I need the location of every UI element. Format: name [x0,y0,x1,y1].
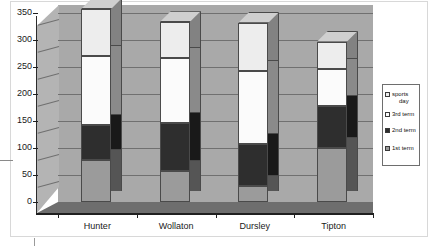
y-tick-200 [33,94,38,95]
bar-segment-sports-day[interactable] [160,22,190,58]
legend-swatch-icon [385,92,390,97]
x-tick [373,213,374,218]
bar-segment-side [111,114,122,149]
bar-segment-side [268,175,279,191]
plot-area [37,5,373,213]
y-axis-label: 150 [17,116,32,125]
bar-segment-3rd-term[interactable] [317,69,347,106]
legend-label: 2nd term [392,127,416,133]
legend-label-wrap: 2nd term [392,127,416,134]
x-axis-label-dursley: Dursley [216,221,295,231]
bar-segment-2nd-term[interactable] [317,106,347,148]
chart-legend[interactable]: sportsday3rd term2nd term1st term [382,84,420,166]
bar-column[interactable] [317,5,358,213]
bar-segment-3rd-term[interactable] [238,71,268,144]
x-axis-label-hunter: Hunter [58,221,137,231]
bar-segment-sports-day[interactable] [238,23,268,71]
y-axis-label: 50 [22,170,32,179]
y-axis-label: 200 [17,89,32,98]
legend-label-wrap: 3rd term [392,111,414,118]
bar-segment-1st-term[interactable] [81,160,111,202]
bar-segment-1st-term[interactable] [160,171,190,202]
bar-segment-1st-term[interactable] [238,186,268,202]
bar-segment-sports-day[interactable] [81,9,111,56]
y-axis-label: 350 [17,8,32,17]
legend-label: sports [392,91,408,97]
legend-item-1st-term[interactable]: 1st term [385,145,414,152]
bar-segment-1st-term[interactable] [317,148,347,202]
legend-label-wrap: sportsday [392,91,409,105]
x-axis-label-tipton: Tipton [294,221,373,231]
y-tick-250 [33,67,38,68]
legend-swatch-icon [385,112,390,117]
chart-root: 050100150200250300350 HunterWollatonDurs… [0,0,431,246]
bar-segment-side [347,58,358,95]
legend-swatch-icon [385,128,390,133]
bar-segment-2nd-term[interactable] [81,125,111,160]
bar-segment-side [347,137,358,191]
y-axis-label: 100 [17,143,32,152]
y-axis-label: 250 [17,62,32,71]
legend-item-sports[interactable]: sportsday [385,91,409,105]
bar-segment-side [111,149,122,191]
bar-segment-2nd-term[interactable] [238,144,268,186]
y-tick-100 [33,148,38,149]
bar-segment-3rd-term[interactable] [160,58,190,123]
y-axis-line [36,16,37,214]
y-axis-label: 0 [27,197,32,206]
y-tick-300 [33,40,38,41]
x-tick [294,213,295,218]
bar-segment-side [347,31,358,59]
x-tick [58,213,59,218]
x-axis-label-wollaton: Wollaton [137,221,216,231]
y-tick-50 [33,175,38,176]
legend-label-wrap: 1st term [392,145,414,152]
x-tick [216,213,217,218]
legend-label: 1st term [392,145,414,151]
legend-item-3rd-term[interactable]: 3rd term [385,111,414,118]
bar-segment-side [190,160,201,191]
bar-column[interactable] [238,5,279,213]
y-tick-150 [33,121,38,122]
bar-segment-side [268,12,279,60]
legend-swatch-icon [385,146,390,151]
bar-segment-2nd-term[interactable] [160,123,190,171]
bar-segment-side [268,60,279,133]
x-axis-line [36,213,373,215]
y-tick-350 [33,13,38,14]
x-tick [137,213,138,218]
bar-segment-side [347,95,358,137]
bar-segment-sports-day[interactable] [317,42,347,70]
bar-column[interactable] [81,5,122,213]
bar-segment-3rd-term[interactable] [81,56,111,125]
legend-item-2nd-term[interactable]: 2nd term [385,127,416,134]
bar-segment-side [190,112,201,160]
bar-segment-side [190,11,201,47]
bar-segment-side [190,47,201,112]
bar-column[interactable] [160,5,201,213]
y-axis-label: 300 [17,35,32,44]
bar-segment-side [111,45,122,114]
legend-label-line2: day [392,98,409,104]
legend-label: 3rd term [392,111,414,117]
bar-segment-side [268,133,279,175]
bottom-edge-tick [34,238,35,246]
bar-segment-side [111,0,122,45]
y-tick-0 [33,202,38,203]
y-axis-labels: 050100150200250300350 [0,0,32,246]
